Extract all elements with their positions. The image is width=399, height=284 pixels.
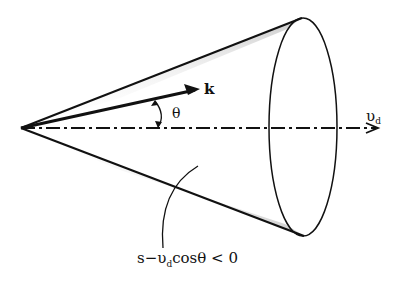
k-label: k [204, 80, 215, 98]
condition-label: s−υdcosθ < 0 [137, 249, 238, 269]
drift-velocity-label: υd [366, 107, 381, 126]
cone-diagram: k θ υd s−υdcosθ < 0 [0, 0, 399, 284]
theta-label: θ [172, 105, 180, 121]
cone-edge-bottom [21, 128, 304, 236]
condition-leader-line [162, 166, 198, 248]
cone-edge-top [21, 18, 302, 128]
theta-arc [151, 100, 162, 128]
drift-velocity-axis [21, 123, 378, 133]
theta-arrow-bottom-icon [155, 121, 162, 128]
